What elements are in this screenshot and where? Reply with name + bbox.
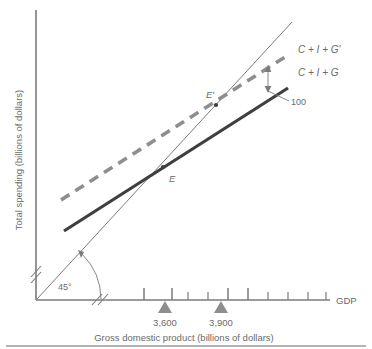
shift-arrow-group [265, 65, 289, 101]
x-axis-ticks [144, 288, 326, 300]
label-shift-amount: 100 [291, 97, 306, 107]
tick-label-3900: 3,900 [209, 317, 233, 328]
label-angle-45: 45° [58, 282, 72, 292]
angle-arc [82, 254, 101, 299]
y-axis-title: Total spending (billions of dollars) [13, 90, 24, 230]
marker-triangle-3600 [158, 301, 172, 313]
angle-indicator [78, 250, 101, 299]
x-axis-title: Gross domestic product (billions of doll… [94, 332, 274, 343]
x-axis-name-gdp: GDP [336, 295, 357, 306]
label-equilibrium-E: E [169, 173, 176, 184]
forty-five-degree-line [37, 22, 292, 299]
marker-triangle-3900 [214, 301, 228, 313]
label-equilibrium-E-prime: E' [206, 89, 215, 100]
tick-label-3600: 3,600 [153, 317, 177, 328]
keynesian-cross-figure: C + I + G' C + I + G E E' 45° 100 3,600 … [0, 0, 372, 349]
curve-label-initial: C + I + G [298, 67, 339, 78]
expenditure-curve-initial-solid [64, 88, 288, 231]
chart-canvas: C + I + G' C + I + G E E' 45° 100 3,600 … [0, 0, 372, 349]
equilibrium-point-E-prime [214, 103, 218, 107]
curve-label-new: C + I + G' [298, 44, 342, 55]
x-axis-value-markers [158, 301, 228, 313]
equilibrium-point-E [161, 165, 165, 169]
